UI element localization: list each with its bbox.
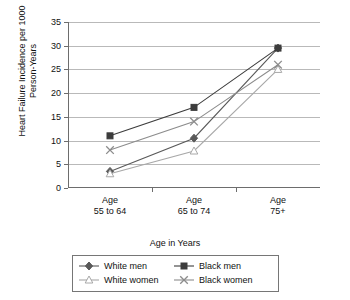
legend-label: Black women (199, 273, 253, 287)
y-tick-mark (64, 188, 68, 189)
filled-square-marker (275, 45, 281, 51)
legend-item-white-men[interactable]: White men (78, 259, 173, 273)
filled-square-marker (181, 263, 187, 269)
y-tick-label: 35 (51, 18, 61, 27)
legend-item-white-women[interactable]: White women (78, 273, 173, 287)
x-tick-mark (152, 188, 153, 192)
x-mark-marker (190, 118, 198, 126)
filled-square-icon (173, 260, 195, 272)
legend-item-black-women[interactable]: Black women (173, 273, 273, 287)
diamond-icon (78, 260, 100, 272)
y-axis-title: Heart Failure Incidence per 1000 Person-… (17, 0, 39, 151)
legend-item-black-men[interactable]: Black men (173, 259, 273, 273)
y-tick-label: 0 (56, 184, 61, 193)
x-axis-title: Age in Years (0, 238, 350, 248)
line-chart: Heart Failure Incidence per 1000 Person-… (0, 0, 350, 300)
x-tick-label: Age 55 to 64 (94, 195, 127, 217)
y-tick-label: 5 (56, 160, 61, 169)
series-layer (68, 22, 320, 188)
x-tick-label: Age 75+ (270, 195, 286, 217)
legend-label: Black men (199, 259, 241, 273)
x-tick-label: Age 65 to 74 (178, 195, 211, 217)
open-triangle-icon (78, 274, 100, 286)
x-mark-marker (106, 146, 114, 154)
filled-square-marker (107, 133, 113, 139)
legend-label: White women (104, 273, 159, 287)
y-tick-label: 15 (51, 112, 61, 121)
plot-area: 05101520253035 Age 55 to 64Age 65 to 74A… (68, 22, 320, 188)
y-tick-label: 25 (51, 65, 61, 74)
x-mark-icon (173, 274, 195, 286)
legend-row: White menBlack men (78, 259, 273, 273)
legend-row: White womenBlack women (78, 273, 273, 287)
filled-square-marker (191, 104, 197, 110)
legend: White menBlack menWhite womenBlack women (72, 255, 279, 292)
x-tick-mark (236, 188, 237, 192)
y-tick-label: 20 (51, 89, 61, 98)
series-line (110, 48, 278, 136)
y-tick-label: 10 (51, 136, 61, 145)
y-tick-label: 30 (51, 41, 61, 50)
legend-label: White men (104, 259, 147, 273)
diamond-marker (85, 262, 92, 270)
